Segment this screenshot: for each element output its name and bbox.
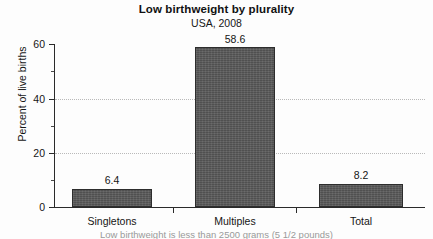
x-tick-boundary-1 bbox=[173, 208, 174, 213]
bar-total bbox=[319, 184, 403, 207]
x-category-label-total: Total bbox=[311, 215, 411, 227]
y-tick-minor-10 bbox=[51, 180, 54, 181]
y-tick-label-20: 20 bbox=[19, 148, 45, 159]
y-tick-20 bbox=[49, 153, 54, 154]
x-category-label-multiples: Multiples bbox=[185, 215, 285, 227]
bar-value-multiples: 58.6 bbox=[195, 34, 275, 45]
x-tick-boundary-2 bbox=[296, 208, 297, 213]
bar-chart-figure: Low birthweight by plurality USA, 2008 P… bbox=[0, 0, 433, 239]
plot-area: 60 40 20 0 6.4 Singletons 58.6 Multiples… bbox=[54, 38, 425, 208]
chart-footnote: Low birthweight is less than 2500 grams … bbox=[0, 229, 433, 239]
y-tick-minor-30 bbox=[51, 126, 54, 127]
chart-subtitle: USA, 2008 bbox=[0, 17, 433, 29]
bar-value-total: 8.2 bbox=[319, 170, 403, 181]
bar-value-singletons: 6.4 bbox=[72, 175, 152, 186]
y-tick-40 bbox=[49, 99, 54, 100]
chart-title: Low birthweight by plurality bbox=[0, 3, 433, 15]
bar-singletons bbox=[72, 189, 152, 207]
y-tick-label-40: 40 bbox=[19, 94, 45, 105]
y-axis-line bbox=[54, 44, 55, 208]
y-tick-minor-50 bbox=[51, 71, 54, 72]
bar-multiples bbox=[195, 47, 275, 207]
x-category-label-singletons: Singletons bbox=[62, 215, 162, 227]
y-tick-60 bbox=[49, 44, 54, 45]
y-tick-0 bbox=[49, 207, 54, 208]
x-axis-line bbox=[54, 207, 425, 208]
y-tick-label-60: 60 bbox=[19, 39, 45, 50]
y-tick-label-0: 0 bbox=[19, 202, 45, 213]
